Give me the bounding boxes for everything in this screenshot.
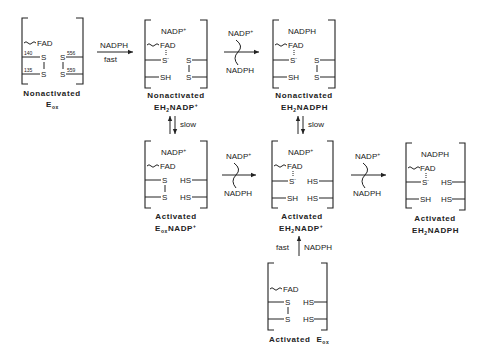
rate-label: slow — [308, 120, 324, 129]
rate-label: slow — [180, 120, 196, 129]
state-nonactivated-eox: FAD 140 S 135 S S 556 S 559 Nonactivated… — [22, 18, 83, 110]
thiol: SH — [160, 73, 171, 82]
state-label: Nonactivated — [23, 89, 80, 98]
left-sulfur-bottom: S — [285, 315, 290, 324]
state-label-formula: EH2NADPH — [412, 226, 459, 236]
state-activated-eh2nadph: NADPH FAD S- SH HS HS Activated EH2NADPH — [406, 143, 465, 236]
right-thiol-top: HS — [307, 177, 318, 186]
right-sulfur-bottom: S — [314, 73, 319, 82]
arrow-up-nadph-fast: fast NADPH — [276, 236, 332, 256]
thiol: SH — [288, 73, 299, 82]
state-label-formula: EH2NADP+ — [279, 223, 323, 234]
fad-wavy-link-icon — [270, 288, 282, 291]
left-sulfur-bottom: S — [41, 70, 46, 79]
right-thiol-bottom: HS — [307, 194, 318, 203]
residue-559: 559 — [67, 67, 76, 73]
state-nonactivated-eh2nadph: NADPH FAD S- SH S S Nonactivated EH2NADP… — [273, 20, 335, 113]
reagent-out: NADP+ — [355, 151, 380, 161]
state-activated-eh2nadp: NADP+ FAD S- SH HS HS Activated EH2NADP+ — [272, 141, 333, 234]
thiolate: S- — [289, 176, 296, 186]
fad-wavy-link-icon — [147, 44, 159, 47]
thiolate: S- — [162, 55, 169, 65]
cofactor-label: NADPH — [288, 27, 316, 36]
arrow-exchange-nonactivated: NADP+ NADPH — [224, 28, 259, 75]
arrow-reagent-label: NADPH — [304, 243, 332, 252]
residue-140: 140 — [24, 50, 33, 56]
right-sulfur-top: S — [186, 56, 191, 65]
thiolate: S- — [290, 55, 297, 65]
thiol: SH — [287, 194, 298, 203]
reagent-in: NADPH — [224, 189, 252, 198]
thiolate: S- — [422, 177, 429, 187]
fad-wavy-link-icon — [147, 165, 159, 168]
reagent-in: NADPH — [226, 66, 254, 75]
right-sulfur-bottom: S — [60, 70, 65, 79]
right-thiol-top: HS — [180, 176, 191, 185]
reaction-scheme: FAD 140 S 135 S S 556 S 559 Nonactivated… — [0, 0, 486, 356]
arrow-nadph-fast: NADPH fast — [97, 41, 133, 64]
right-thiol-bottom: HS — [180, 193, 191, 202]
thiol: SH — [420, 195, 431, 204]
fad-wavy-link-icon — [24, 42, 36, 45]
left-sulfur-top: S — [285, 298, 290, 307]
state-label: Activated — [155, 212, 196, 221]
fad-label: FAD — [283, 285, 299, 294]
residue-556: 556 — [67, 50, 76, 56]
arrow-exchange-activated-right: NADP+ NADPH — [351, 151, 386, 198]
state-label: Nonactivated — [147, 91, 204, 100]
left-sulfur-bottom: S — [162, 193, 167, 202]
arrow-exchange-activated-left: NADP+ NADPH — [222, 151, 256, 198]
fad-label: FAD — [288, 41, 304, 50]
right-thiol-top: HS — [303, 298, 314, 307]
fad-wavy-link-icon — [274, 165, 286, 168]
state-label-formula: Eox — [46, 100, 59, 110]
state-label: ActivatedEox — [269, 335, 329, 345]
left-sulfur-top: S — [41, 53, 46, 62]
reagent-in: NADPH — [353, 189, 381, 198]
right-thiol-top: HS — [441, 178, 452, 187]
right-sulfur-bottom: S — [186, 73, 191, 82]
fad-label: FAD — [287, 162, 303, 171]
equilibrium-slow-right: slow — [298, 116, 324, 134]
state-label: Activated — [281, 212, 322, 221]
cofactor-label: NADP+ — [161, 147, 186, 157]
right-thiol-bottom: HS — [441, 195, 452, 204]
arrow-rate-label: fast — [276, 243, 290, 252]
residue-135: 135 — [24, 67, 33, 73]
state-label-formula: EH2NADP+ — [154, 102, 198, 113]
fad-label: FAD — [37, 39, 53, 48]
cofactor-label: NADPH — [421, 150, 449, 159]
arrow-rate-label: fast — [104, 55, 118, 64]
fad-label: FAD — [160, 41, 176, 50]
state-label: Activated — [414, 214, 455, 223]
arrow-reagent-label: NADPH — [100, 41, 128, 50]
fad-wavy-link-icon — [275, 44, 287, 47]
fad-label: FAD — [160, 162, 176, 171]
reagent-out: NADP+ — [226, 151, 251, 161]
right-sulfur-top: S — [60, 53, 65, 62]
fad-label: FAD — [420, 164, 436, 173]
right-sulfur-top: S — [314, 56, 319, 65]
cofactor-label: NADP+ — [288, 147, 313, 157]
fad-wavy-link-icon — [408, 167, 420, 170]
state-label-formula: EH2NADPH — [281, 103, 328, 113]
reagent-out: NADP+ — [228, 28, 253, 38]
state-label: Nonactivated — [275, 91, 332, 100]
left-sulfur-top: S — [162, 176, 167, 185]
equilibrium-slow-left: slow — [170, 116, 196, 134]
state-nonactivated-eh2nadp: NADP+ FAD S- SH S S Nonactivated EH2NADP… — [145, 20, 207, 113]
state-label-formula: EoxNADP+ — [155, 223, 197, 234]
state-activated-eoxnadp: NADP+ FAD S S HS HS Activated EoxNADP+ — [145, 141, 207, 234]
state-activated-eox: FAD S S HS HS ActivatedEox — [268, 263, 329, 345]
right-thiol-bottom: HS — [303, 315, 314, 324]
cofactor-label: NADP+ — [161, 26, 186, 36]
